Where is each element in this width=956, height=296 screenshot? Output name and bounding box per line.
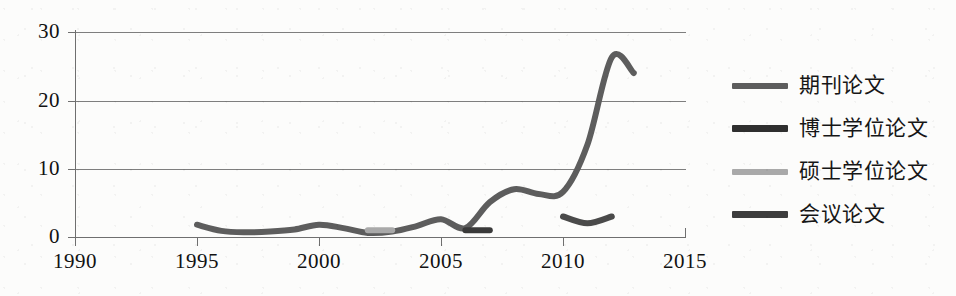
legend-item-journal[interactable]: 期刊论文 xyxy=(732,64,947,107)
legend-item-conference[interactable]: 会议论文 xyxy=(732,193,947,236)
x-axis-label-2015: 2015 xyxy=(640,250,730,273)
x-axis-right-cap xyxy=(685,228,686,238)
x-axis-label-2000: 2000 xyxy=(274,250,364,273)
series-line-journal xyxy=(197,54,634,233)
x-axis-line xyxy=(75,237,686,238)
legend-item-master[interactable]: 硕士学位论文 xyxy=(732,150,947,193)
legend-swatch-journal xyxy=(732,83,788,89)
x-axis-label-1995: 1995 xyxy=(152,250,242,273)
y-axis-label-0: 0 xyxy=(0,226,60,247)
chart-figure: 30 20 10 0 1990 1995 2000 2005 2010 2015… xyxy=(0,0,956,296)
x-tick-2000 xyxy=(319,237,320,246)
x-axis-label-1990: 1990 xyxy=(30,250,120,273)
x-tick-1995 xyxy=(197,237,198,246)
y-axis-label-10: 10 xyxy=(0,158,60,179)
legend-swatch-master xyxy=(732,169,788,175)
y-axis-line xyxy=(75,30,76,239)
legend-label-master: 硕士学位论文 xyxy=(799,160,929,183)
x-axis-label-2005: 2005 xyxy=(396,250,486,273)
x-axis-label-2010: 2010 xyxy=(518,250,608,273)
y-tick-30 xyxy=(68,32,76,33)
series-line-conference xyxy=(563,217,612,224)
gridline-30 xyxy=(75,32,686,33)
legend-label-conference: 会议论文 xyxy=(799,203,885,226)
legend-item-doctoral[interactable]: 博士学位论文 xyxy=(732,107,947,150)
gridline-20 xyxy=(75,101,686,102)
x-tick-2005 xyxy=(441,237,442,246)
y-axis-label-20: 20 xyxy=(0,90,60,111)
legend-label-journal: 期刊论文 xyxy=(799,74,885,97)
x-tick-2010 xyxy=(563,237,564,246)
gridline-10 xyxy=(75,169,686,170)
legend-swatch-doctoral xyxy=(732,125,788,132)
y-tick-20 xyxy=(68,101,76,102)
legend-label-doctoral: 博士学位论文 xyxy=(799,117,929,140)
chart-legend: 期刊论文 博士学位论文 硕士学位论文 会议论文 xyxy=(732,64,947,236)
x-tick-1990 xyxy=(75,237,76,246)
y-axis-label-30: 30 xyxy=(0,21,60,42)
legend-swatch-conference xyxy=(732,211,788,218)
y-tick-10 xyxy=(68,169,76,170)
